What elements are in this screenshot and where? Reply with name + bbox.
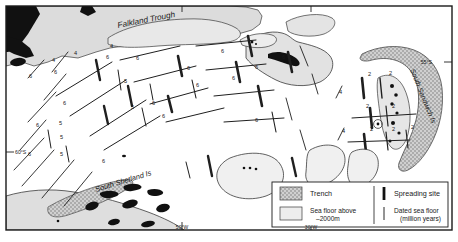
legend-seafloor-label-line1: Sea floor above: [310, 207, 357, 214]
age-label: 6: [36, 122, 39, 128]
shag-rocks-islet-2: [255, 43, 257, 45]
sandwich-islet-6: [397, 131, 400, 134]
age-label: 6: [232, 75, 235, 81]
age-label: 4: [74, 50, 77, 56]
map-legend: Trench Sea floor above –2000m Spreading …: [272, 182, 448, 227]
age-label: 6: [136, 55, 139, 61]
age-label: 2: [370, 126, 373, 132]
age-label: 5: [60, 134, 63, 140]
south-orkney-islet-3: [255, 168, 258, 171]
legend-dated-seafloor-label-line2: (million years): [400, 215, 441, 223]
legend-seafloor-swatch: [280, 207, 302, 220]
age-label: 2: [392, 126, 395, 132]
age-label: 6: [162, 113, 165, 119]
legend-spreading-site-label: Spreading site: [394, 189, 440, 198]
legend-seafloor-label-line2: –2000m: [316, 215, 340, 222]
legend-dated-seafloor-label-line1: Dated sea floor: [394, 207, 440, 214]
age-label: 6: [63, 100, 66, 106]
age-label: 2: [392, 103, 395, 109]
age-label: 6: [187, 65, 190, 71]
age-label: 2: [411, 124, 414, 130]
sandwich-islet-2: [394, 93, 398, 97]
age-label: 6: [221, 48, 224, 54]
small-islet: [122, 155, 126, 157]
age-label: 5: [60, 151, 63, 157]
age-label: 6: [282, 54, 285, 60]
sandwich-islet-5: [391, 121, 395, 125]
age-label: 6: [255, 64, 258, 70]
age-label: 4: [52, 57, 55, 63]
age-label: 5: [131, 104, 134, 110]
age-label: 4: [110, 43, 113, 49]
tectonic-map: Trench Sea floor above –2000m Spreading …: [0, 0, 458, 242]
age-label: 6: [255, 117, 258, 123]
age-label: 5: [59, 120, 62, 126]
south-orkney-islet-2: [249, 167, 252, 170]
shetland-islet-9: [57, 220, 60, 223]
age-label: 6: [29, 73, 32, 79]
age-label: 6: [102, 158, 105, 164]
legend-trench-label: Trench: [310, 189, 332, 198]
age-label: 5: [124, 78, 127, 84]
shag-rocks-islet: [251, 41, 254, 44]
lon-label-bottom-30w: 30°W: [305, 224, 318, 230]
age-label: 2: [368, 71, 371, 77]
lon-label-bottom-50w: 50°W: [176, 224, 189, 230]
lat-label-right-55s: 55°S: [421, 59, 433, 65]
age-label: 4: [342, 128, 345, 134]
south-orkney-islet-1: [243, 167, 246, 170]
age-label: 6: [54, 69, 57, 75]
map-canvas: Trench Sea floor above –2000m Spreading …: [0, 0, 458, 242]
sandwich-islet-1: [390, 84, 394, 88]
age-label: 6: [196, 82, 199, 88]
sandwich-islet-4: [395, 111, 398, 114]
age-label: 2: [389, 70, 392, 76]
age-label: 6: [106, 54, 109, 60]
legend-trench-swatch: [280, 187, 302, 200]
age-label: 4: [339, 89, 342, 95]
lat-label-left-60s: 60°S: [15, 149, 27, 155]
age-label: 6: [152, 100, 155, 106]
age-label: 2: [366, 103, 369, 109]
seamount-core: [377, 123, 380, 126]
age-label: 6: [28, 151, 31, 157]
